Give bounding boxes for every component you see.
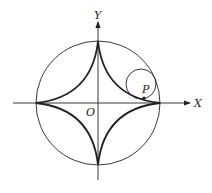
y-axis-label: Y (94, 9, 103, 22)
x-axis-label: X (193, 97, 203, 110)
astroid-diagram: Y X O P (0, 0, 212, 193)
point-p (142, 96, 145, 99)
rolling-circle (126, 69, 156, 99)
point-p-label: P (141, 83, 150, 96)
origin-label: O (86, 106, 95, 119)
